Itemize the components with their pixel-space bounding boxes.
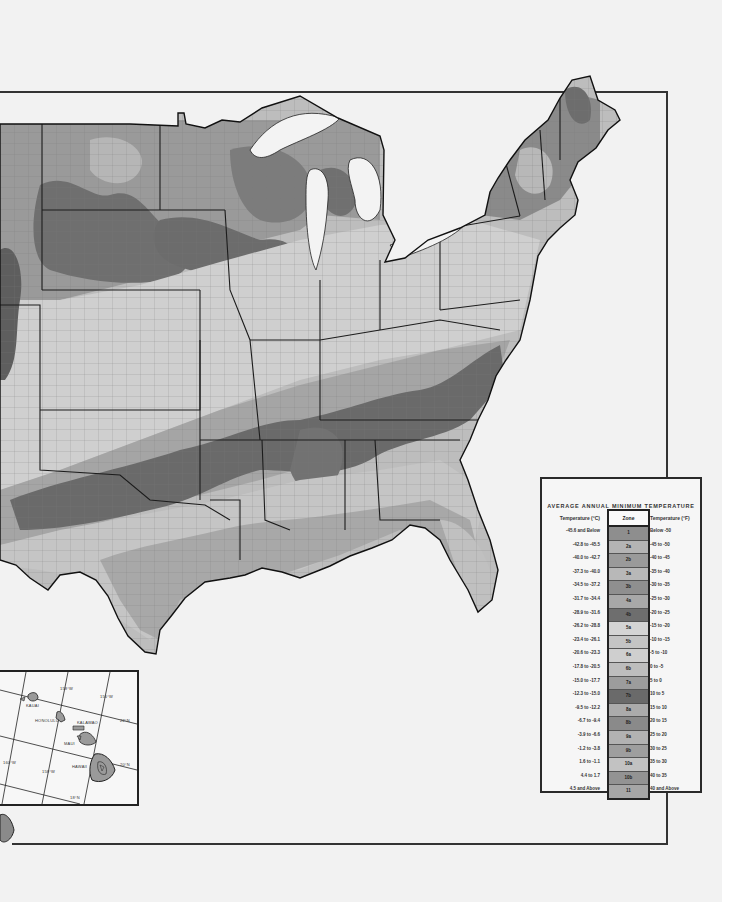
inset-graticule-label: 156°W — [100, 694, 113, 699]
inset-label-kauai: KAUAI — [26, 703, 39, 708]
inset-graticule-label: 18°N — [70, 795, 80, 800]
legend-header-zone: Zone — [609, 511, 648, 527]
legend-fahrenheit-range: 35 to 30 — [650, 756, 700, 769]
legend-celsius-range: -34.5 to -37.2 — [542, 579, 600, 592]
legend-header-fahrenheit: Temperature (°F) — [650, 515, 700, 521]
zone-swatch: 3a — [609, 568, 648, 582]
legend-celsius-range: 4.5 and Above — [542, 783, 600, 796]
zone-swatch: 4b — [609, 609, 648, 623]
legend-celsius-range: -37.3 to -40.0 — [542, 566, 600, 579]
inset-graticule-label: 158°W — [60, 686, 73, 691]
inset-label-honolulu: HONOLULU — [35, 718, 59, 723]
legend-fahrenheit-range: 20 to 15 — [650, 715, 700, 728]
legend-fahrenheit-range: 10 to 5 — [650, 688, 700, 701]
hawaii-inset-map — [0, 672, 137, 804]
legend-header-celsius: Temperature (°C) — [542, 515, 600, 521]
legend-celsius-range: -15.0 to -17.7 — [542, 675, 600, 688]
legend-fahrenheit-range: 30 to 25 — [650, 743, 700, 756]
legend-celsius-range: -23.4 to -26.1 — [542, 634, 600, 647]
zone-swatch: 11 — [609, 785, 648, 798]
legend-celsius-range: -3.9 to -6.6 — [542, 729, 600, 742]
legend-fahrenheit-range: Below -50 — [650, 525, 700, 538]
legend-fahrenheit-range: 40 to 35 — [650, 770, 700, 783]
legend-celsius-range: 1.6 to -1.1 — [542, 756, 600, 769]
zone-swatch: 7a — [609, 677, 648, 691]
zone-swatch: 8b — [609, 717, 648, 731]
zone-swatch: 6a — [609, 649, 648, 663]
zone-swatch: 9a — [609, 731, 648, 745]
zone-column: Zone 12a2b3a3b4a4b5a5b6a6b7a7b8a8b9a9b10… — [607, 509, 650, 800]
inset-graticule-label: 158°W — [42, 769, 55, 774]
zone-swatch: 2a — [609, 541, 648, 555]
legend-celsius-range: -6.7 to -9.4 — [542, 715, 600, 728]
legend-fahrenheit-range: -25 to -30 — [650, 593, 700, 606]
zone-swatch: 9b — [609, 745, 648, 759]
legend-celsius-range: -1.2 to -3.8 — [542, 743, 600, 756]
zone-swatch: 10b — [609, 772, 648, 786]
legend-fahrenheit-range: 5 to 0 — [650, 675, 700, 688]
legend: AVERAGE ANNUAL MINIMUM TEMPERATURE Tempe… — [540, 477, 702, 793]
legend-celsius-range: 4.4 to 1.7 — [542, 770, 600, 783]
legend-fahrenheit-range: -20 to -25 — [650, 607, 700, 620]
zone-swatch: 1 — [609, 527, 648, 541]
zone-swatch: 10a — [609, 758, 648, 772]
legend-celsius-range: -40.0 to -42.7 — [542, 552, 600, 565]
legend-celsius-range: -20.6 to -23.3 — [542, 647, 600, 660]
inset-label-kalawao: KALAWAO — [77, 720, 98, 725]
legend-fahrenheit-range: 0 to -5 — [650, 661, 700, 674]
legend-fahrenheit-range: -5 to -10 — [650, 647, 700, 660]
legend-fahrenheit-range: 25 to 20 — [650, 729, 700, 742]
legend-fahrenheit-range: -45 to -50 — [650, 539, 700, 552]
zone-swatch: 5b — [609, 636, 648, 650]
zone-swatch: 3b — [609, 581, 648, 595]
legend-celsius-range: -31.7 to -34.4 — [542, 593, 600, 606]
inset-label-hawaii: HAWAII — [72, 764, 87, 769]
zone-swatch: 4a — [609, 595, 648, 609]
inset-graticule-label: 20°N — [120, 762, 130, 767]
hawaii-inset: KAUAI HONOLULU KALAWAO MAUI HAWAII 158°W… — [0, 670, 139, 806]
legend-celsius-range: -28.9 to -31.6 — [542, 607, 600, 620]
legend-fahrenheit-range: -15 to -20 — [650, 620, 700, 633]
legend-fahrenheit-range: 40 and Above — [650, 783, 700, 796]
legend-celsius-range: -42.8 to -45.5 — [542, 539, 600, 552]
legend-celsius-range: -12.3 to -15.0 — [542, 688, 600, 701]
legend-celsius-range: -26.2 to -28.8 — [542, 620, 600, 633]
zone-swatch: 6b — [609, 663, 648, 677]
legend-celsius-range: -9.5 to -12.2 — [542, 702, 600, 715]
legend-fahrenheit-range: -30 to -35 — [650, 579, 700, 592]
zone-swatch: 5a — [609, 622, 648, 636]
legend-celsius-range: -45.6 and Below — [542, 525, 600, 538]
legend-celsius-range: -17.8 to -20.5 — [542, 661, 600, 674]
legend-fahrenheit-range: -40 to -45 — [650, 552, 700, 565]
inset-label-maui: MAUI — [64, 741, 75, 746]
inset-graticule-label: 22°N — [120, 718, 130, 723]
inset-graticule-label: 160°W — [3, 760, 16, 765]
zone-swatch: 8a — [609, 704, 648, 718]
legend-fahrenheit-range: -10 to -15 — [650, 634, 700, 647]
zone-swatch: 7b — [609, 690, 648, 704]
legend-fahrenheit-range: -35 to -40 — [650, 566, 700, 579]
zone-swatch: 2b — [609, 554, 648, 568]
legend-fahrenheit-range: 15 to 10 — [650, 702, 700, 715]
